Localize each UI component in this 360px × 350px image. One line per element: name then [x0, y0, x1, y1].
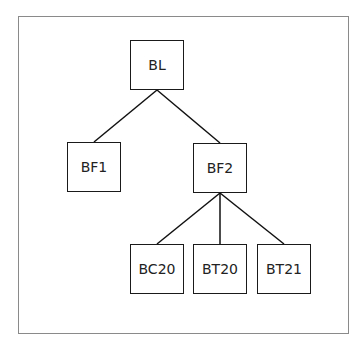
node-label: BF1 [81, 159, 108, 175]
node-label: BL [148, 57, 165, 73]
node-label: BT21 [266, 261, 302, 277]
node-bt20: BT20 [193, 244, 247, 294]
node-label: BT20 [202, 261, 238, 277]
edge-bl-bf1 [94, 90, 157, 142]
edge-bf2-bt21 [220, 193, 284, 244]
node-label: BF2 [207, 160, 234, 176]
node-bt21: BT21 [257, 244, 311, 294]
node-bf1: BF1 [67, 142, 121, 192]
node-label: BC20 [139, 261, 176, 277]
node-bc20: BC20 [130, 244, 184, 294]
edge-bf2-bc20 [157, 193, 220, 244]
node-bl: BL [130, 40, 184, 90]
node-bf2: BF2 [193, 143, 247, 193]
edge-bl-bf2 [157, 90, 220, 143]
